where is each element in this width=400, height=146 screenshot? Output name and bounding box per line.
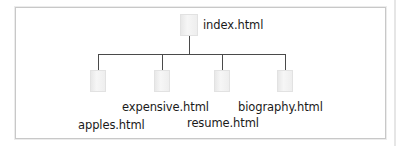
resume-page-icon	[214, 70, 230, 92]
expensive-page-icon	[154, 70, 170, 92]
biography-page-icon	[277, 70, 293, 92]
resume-label: resume.html	[187, 118, 259, 130]
apples-page-icon	[90, 70, 106, 92]
root-stem-line	[189, 36, 190, 54]
root-page-icon	[180, 14, 198, 36]
expensive-label: expensive.html	[122, 102, 209, 114]
right-edge-divider	[394, 0, 396, 146]
root-label: index.html	[203, 20, 263, 32]
biography-label: biography.html	[238, 102, 323, 114]
child-drop-line-biography	[285, 54, 286, 71]
child-drop-line-expensive	[162, 54, 163, 71]
child-drop-line-apples	[98, 54, 99, 71]
horizontal-connector-line	[98, 54, 286, 55]
child-drop-line-resume	[222, 54, 223, 71]
apples-label: apples.html	[78, 120, 145, 132]
